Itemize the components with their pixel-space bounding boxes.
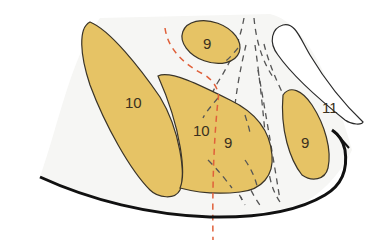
label-region-9-top: 9 [203, 35, 211, 52]
label-structure-11: 11 [322, 99, 338, 116]
label-region-9-right: 9 [301, 134, 309, 151]
label-region-10-middle: 10 [193, 122, 210, 139]
label-region-10-left: 10 [125, 94, 142, 111]
anatomical-diagram: 10 9 10 9 9 11 [0, 0, 390, 240]
label-region-9-middle: 9 [224, 134, 232, 151]
